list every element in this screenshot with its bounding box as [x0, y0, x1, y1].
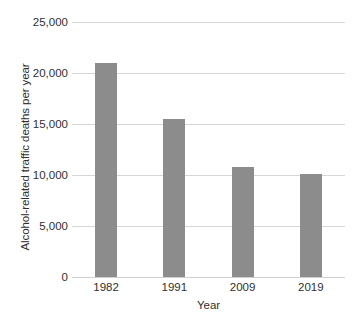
bar-chart-figure: Alcohol-related traffic deaths per year …	[0, 0, 353, 316]
plot-area	[72, 22, 345, 277]
bars-group	[72, 22, 345, 277]
x-axis-tick-label: 2009	[218, 281, 268, 293]
x-axis-tick-label: 2019	[286, 281, 336, 293]
bar[interactable]	[300, 174, 322, 277]
y-axis-tick-label-group: 05,00010,00015,00020,00025,000	[24, 0, 68, 316]
gridline	[72, 277, 345, 278]
bar[interactable]	[95, 63, 117, 277]
x-axis-tick-label: 1982	[81, 281, 131, 293]
x-axis-title: Year	[72, 299, 345, 311]
x-axis-tick-label: 1991	[149, 281, 199, 293]
y-axis-tick-label: 10,000	[24, 169, 68, 181]
y-axis-tick-label: 25,000	[24, 16, 68, 28]
y-axis-tick-label: 0	[24, 271, 68, 283]
y-axis-tick-label: 5,000	[24, 220, 68, 232]
bar[interactable]	[163, 119, 185, 277]
bar[interactable]	[232, 167, 254, 277]
y-axis-tick-label: 20,000	[24, 67, 68, 79]
x-axis-tick-label-group: 1982199120092019	[72, 281, 345, 299]
y-axis-tick-label: 15,000	[24, 118, 68, 130]
